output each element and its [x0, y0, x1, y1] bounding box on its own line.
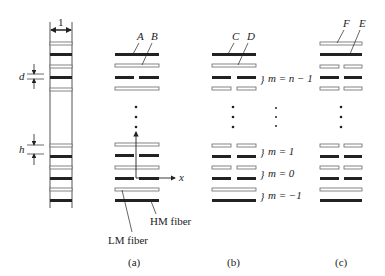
- label-c: C: [232, 30, 240, 42]
- h-label: h: [19, 143, 25, 155]
- fiber-layup-diagram: 1 d h: [0, 0, 385, 276]
- label-e: E: [358, 17, 366, 29]
- layer-label-0: m = 0: [268, 167, 295, 179]
- caption-c: (c): [335, 256, 348, 269]
- layer-label-n-1: m = n − 1: [268, 72, 313, 84]
- layer-label-minus-1: m = −1: [268, 189, 302, 201]
- label-b: B: [151, 30, 158, 42]
- layer-label-1: m = 1: [268, 145, 294, 157]
- x-axis-label: x: [178, 171, 184, 183]
- svg-text:}: }: [260, 146, 265, 158]
- svg-text:}: }: [260, 190, 265, 202]
- svg-text:}: }: [260, 168, 265, 180]
- d-label: d: [19, 70, 25, 82]
- label-a: A: [136, 30, 144, 42]
- label-d: D: [246, 30, 255, 42]
- caption-b: (b): [227, 256, 240, 269]
- lm-fiber-label: LM fiber: [108, 234, 148, 246]
- caption-a: (a): [128, 256, 141, 269]
- panel-a: x A B HM fiber LM fiber (a): [108, 30, 192, 269]
- hm-fiber-label: HM fiber: [150, 215, 192, 227]
- svg-text:}: }: [260, 73, 265, 85]
- label-f: F: [342, 17, 350, 29]
- width-label: 1: [58, 16, 64, 28]
- panel-b: C D } m = n − 1 } m = 1 } m = 0 } m = −1…: [212, 30, 313, 269]
- left-stack: 1 d h: [19, 16, 72, 208]
- panel-c: F E (c): [320, 17, 366, 269]
